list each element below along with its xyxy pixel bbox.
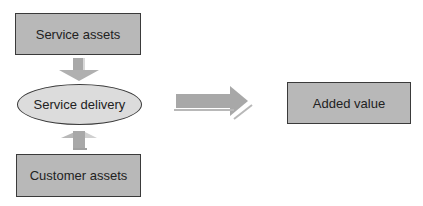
- arrow-up-icon: [55, 126, 105, 154]
- customer-assets-label: Customer assets: [30, 168, 128, 183]
- arrow-down-icon: [55, 56, 105, 84]
- added-value-label: Added value: [313, 96, 385, 111]
- customer-assets-box: Customer assets: [16, 154, 141, 197]
- service-delivery-ellipse: Service delivery: [17, 84, 142, 125]
- service-delivery-label: Service delivery: [34, 97, 126, 112]
- service-assets-box: Service assets: [15, 13, 141, 55]
- service-assets-label: Service assets: [36, 27, 121, 42]
- added-value-box: Added value: [287, 82, 411, 124]
- arrow-right-icon: [174, 86, 254, 122]
